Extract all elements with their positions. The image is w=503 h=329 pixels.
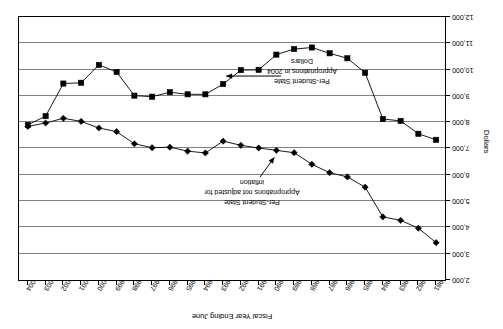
arrow-nominal-head [269,157,275,163]
annotation-arrows [0,0,503,329]
arrow-real-head [226,73,232,78]
chart-figure: Dollars Fiscal Year Ending June 2,0003,0… [0,0,503,329]
